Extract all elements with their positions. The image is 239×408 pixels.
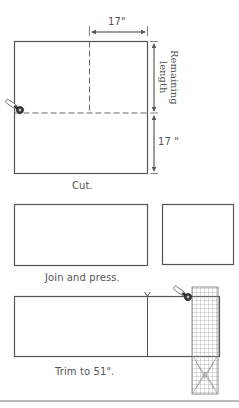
remaining-label-line2: length — [158, 61, 169, 93]
lower-dimension-label: 17 " — [158, 136, 179, 147]
remaining-label-line1: Remaining — [169, 50, 180, 105]
right-dimension — [150, 42, 158, 174]
step2-small-piece — [163, 205, 234, 265]
top-dimension-label: 17" — [108, 16, 126, 27]
step2-joined-strip — [15, 205, 148, 266]
rotary-cutter-icon — [172, 284, 193, 302]
seam-mark — [145, 292, 151, 296]
step1-caption: Cut. — [72, 180, 93, 191]
quilting-ruler-icon — [192, 287, 218, 394]
diagram-canvas — [0, 0, 239, 408]
step2-caption: Join and press. — [45, 272, 120, 283]
step3-caption: Trim to 51". — [55, 366, 114, 377]
top-dimension-17 — [90, 26, 148, 36]
step1-fabric-panel — [15, 42, 148, 174]
step3-joined-panel — [15, 292, 220, 357]
remaining-length-label: Remaining length — [158, 44, 180, 110]
